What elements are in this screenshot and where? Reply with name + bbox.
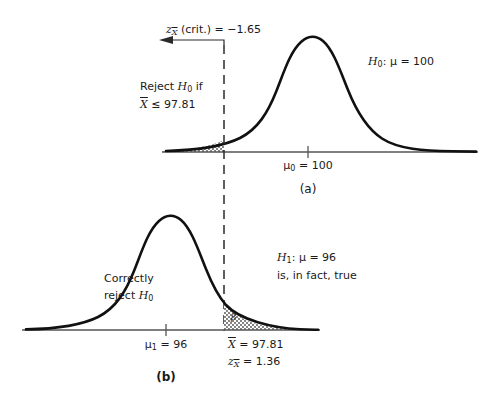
panel-b-mu-symbol: μ	[145, 338, 152, 351]
alternative-hypothesis-symbol: H	[277, 251, 287, 264]
null-hypothesis-symbol: H	[368, 55, 378, 68]
hypothesis-test-figure: zX (crit.) = −1.65 Reject H0 if X ≤ 97.8…	[0, 0, 486, 404]
reject-rule-h-symbol: H	[178, 80, 188, 93]
panel-b-mu-value: = 96	[157, 338, 187, 351]
reject-rule-threshold: ≤ 97.81	[148, 98, 196, 111]
observed-z-value: = 1.36	[240, 355, 281, 368]
observed-xbar-label: X = 97.81	[228, 337, 284, 352]
panel-a-mu-value: = 100	[295, 159, 332, 172]
panel-a-tag: (a)	[300, 182, 317, 197]
panel-a-mu-symbol: μ	[283, 159, 290, 172]
correct-rejection-h-subscript: 0	[148, 294, 153, 303]
alternative-hypothesis-label: H1: μ = 96	[277, 250, 336, 268]
correct-rejection-line1: Correctly	[104, 271, 154, 286]
reject-rule-line1: Reject H0 if	[140, 79, 203, 97]
panel-a-arrow-connector	[172, 40, 224, 45]
beta-symbol: β	[231, 312, 236, 322]
panel-b-tag: (b)	[156, 370, 176, 385]
reject-rule-suffix: if	[192, 80, 202, 93]
reject-rule-prefix: Reject	[140, 80, 178, 93]
panel-b-mean-label: μ1 = 96	[145, 337, 187, 355]
alternative-hypothesis-statement: : μ = 96	[292, 251, 336, 264]
observed-xbar-symbol: X	[228, 338, 236, 351]
panel-b-normal-curve	[26, 216, 318, 330]
reject-rule-line2: X ≤ 97.81	[140, 97, 196, 112]
beta-region-label: β	[231, 310, 236, 325]
critical-z-annotation: zX (crit.) = −1.65	[166, 22, 261, 40]
correct-rejection-prefix: reject	[104, 289, 139, 302]
null-hypothesis-statement: : μ = 100	[383, 55, 434, 68]
critical-z-text: (crit.) = −1.65	[178, 23, 261, 36]
observed-z-label: zX = 1.36	[228, 354, 280, 372]
correct-rejection-h-symbol: H	[139, 289, 149, 302]
null-hypothesis-label: H0: μ = 100	[368, 54, 434, 72]
alternative-hypothesis-note: is, in fact, true	[277, 268, 357, 283]
panel-a-mean-label: μ0 = 100	[283, 158, 332, 176]
reject-rule-xbar-symbol: X	[140, 98, 148, 111]
correct-rejection-line2: reject H0	[104, 288, 153, 306]
panel-b-graphics	[22, 216, 320, 336]
observed-xbar-value: = 97.81	[236, 338, 284, 351]
